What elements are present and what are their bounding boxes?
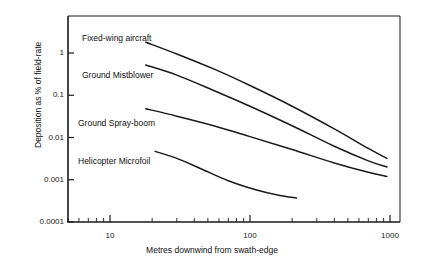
series-label: Ground Spray-boom — [78, 118, 155, 128]
x-tick-label: 10 — [90, 231, 130, 240]
x-tick-label: 1000 — [370, 231, 410, 240]
series-label: Ground Mistblower — [82, 70, 153, 80]
x-tick-label: 100 — [230, 231, 270, 240]
deposition-drift-chart: 10.10.010.0010.0001 101001000 Fixed-wing… — [0, 0, 424, 263]
y-axis-title: Deposition as % of field-rate — [33, 42, 43, 148]
series-label: Helicopter Microfoil — [78, 156, 150, 166]
y-tick-label: 0.001 — [20, 175, 64, 184]
y-tick-label: 0.0001 — [20, 217, 64, 226]
x-axis-title: Metres downwind from swath-edge — [0, 245, 424, 255]
series-label: Fixed-wing aircraft — [82, 33, 151, 43]
